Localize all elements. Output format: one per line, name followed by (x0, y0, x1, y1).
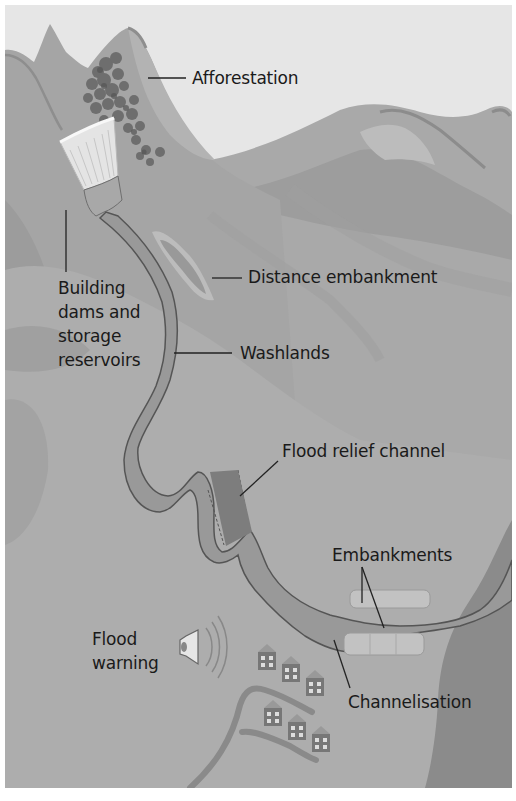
embankment-lower (344, 633, 424, 655)
label-flood-warning: Flood warning (92, 627, 159, 675)
landscape-illustration (0, 0, 516, 801)
label-afforestation: Afforestation (192, 67, 298, 89)
label-embankments: Embankments (332, 544, 452, 566)
flood-management-diagram: Afforestation Building dams and storage … (0, 0, 516, 801)
label-channelisation: Channelisation (348, 691, 472, 713)
label-dams-and-reservoirs: Building dams and storage reservoirs (58, 276, 140, 372)
label-washlands: Washlands (240, 342, 330, 364)
bottom-margin (0, 788, 516, 801)
label-distance-embankment: Distance embankment (248, 266, 437, 288)
label-flood-relief-channel: Flood relief channel (282, 440, 445, 462)
